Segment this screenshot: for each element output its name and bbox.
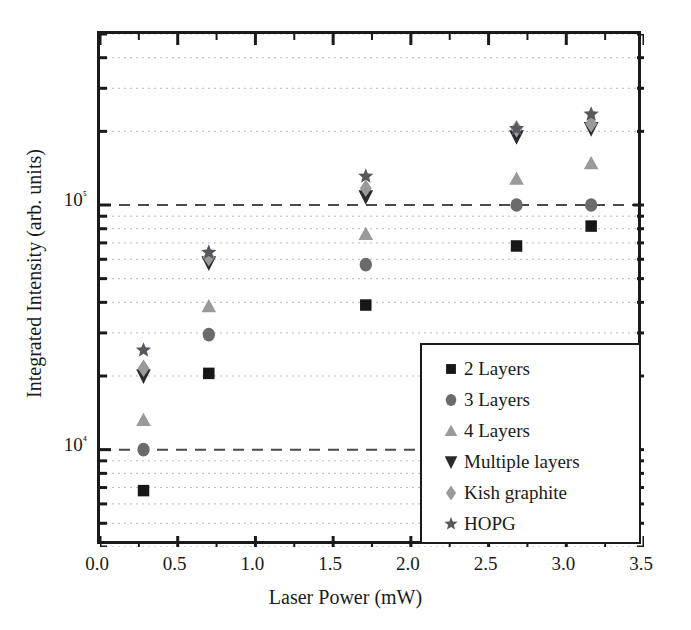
legend-item-label: 4 Layers xyxy=(464,421,530,440)
data-point xyxy=(511,240,522,251)
legend-item: Kish graphite xyxy=(422,477,639,508)
triangle-up-marker-icon xyxy=(438,421,464,441)
data-point xyxy=(360,258,372,272)
data-point xyxy=(358,227,373,240)
data-point xyxy=(360,299,371,310)
data-point xyxy=(136,342,151,357)
data-point xyxy=(509,171,524,184)
x-axis-title: Laser Power (mW) xyxy=(0,586,691,609)
x-tick-label: 1.5 xyxy=(290,553,370,575)
legend-item-label: 2 Layers xyxy=(464,359,530,378)
data-point xyxy=(138,485,149,496)
legend-item-label: HOPG xyxy=(464,514,516,533)
data-point xyxy=(137,443,149,457)
x-tick-label: 1.0 xyxy=(212,553,292,575)
data-point xyxy=(203,368,214,379)
legend-item: HOPG xyxy=(422,508,639,539)
legend-item: 3 Layers xyxy=(422,384,639,415)
x-tick-label: 2.5 xyxy=(446,553,526,575)
y-tick-label: 10⁴ xyxy=(5,433,87,456)
data-point xyxy=(584,156,599,169)
legend-item-label: 3 Layers xyxy=(464,390,530,409)
square-marker-icon xyxy=(438,359,464,379)
legend-item: Multiple layers xyxy=(422,446,639,477)
triangle-down-marker-icon xyxy=(438,452,464,472)
data-point xyxy=(203,328,215,342)
legend-item: 4 Layers xyxy=(422,415,639,446)
legend-box: 2 Layers3 Layers4 LayersMultiple layersK… xyxy=(420,343,641,544)
data-point xyxy=(136,413,151,426)
y-tick-label: 10⁵ xyxy=(5,188,87,211)
x-tick-label: 2.0 xyxy=(368,553,448,575)
circle-marker-icon xyxy=(438,390,464,410)
legend-item-label: Multiple layers xyxy=(464,452,580,471)
data-point xyxy=(585,198,597,212)
data-point xyxy=(201,299,216,312)
x-tick-label: 0.5 xyxy=(135,553,215,575)
x-tick-label: 3.0 xyxy=(523,553,603,575)
star-marker-icon xyxy=(438,514,464,534)
data-point xyxy=(510,198,522,212)
figure-scatter-plot: 10⁴10⁵ 0.00.51.01.52.02.53.03.5 Laser Po… xyxy=(0,0,691,630)
y-axis-title: Integrated Intensity (arb. units) xyxy=(23,54,46,494)
data-point xyxy=(585,220,596,231)
x-tick-label: 0.0 xyxy=(57,553,137,575)
legend-item-label: Kish graphite xyxy=(464,483,567,502)
diamond-marker-icon xyxy=(438,483,464,503)
legend-item: 2 Layers xyxy=(422,353,639,384)
x-tick-label: 3.5 xyxy=(601,553,681,575)
